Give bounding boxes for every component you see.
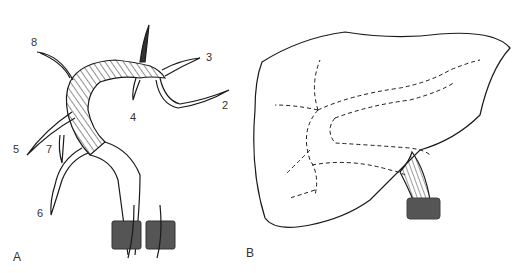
panel-label-a: A [13, 251, 21, 263]
clamp-liver [407, 198, 440, 219]
label-7: 7 [46, 144, 52, 155]
label-4: 4 [130, 112, 136, 123]
panel-b-liver [254, 32, 510, 227]
vessel-branch-7 [59, 135, 64, 163]
vessel-top-spike [140, 25, 149, 62]
label-6: 6 [37, 208, 43, 219]
clamp-left [112, 221, 141, 249]
portal-branches-dashed [275, 60, 480, 198]
vessel-branch-6 [51, 148, 88, 215]
liver-outline [254, 32, 510, 227]
label-8: 8 [31, 37, 37, 48]
label-2: 2 [222, 100, 228, 111]
vessel-branch-4 [133, 78, 140, 100]
label-5: 5 [13, 144, 19, 155]
label-3: 3 [206, 52, 212, 63]
vessel-branch-2 [156, 78, 229, 108]
diagram-canvas [0, 0, 524, 273]
panel-label-b: B [246, 247, 254, 259]
vessel-branch-8 [37, 52, 73, 80]
aortic-arch-hatched [66, 60, 165, 155]
vessel-branch-3 [162, 58, 200, 76]
